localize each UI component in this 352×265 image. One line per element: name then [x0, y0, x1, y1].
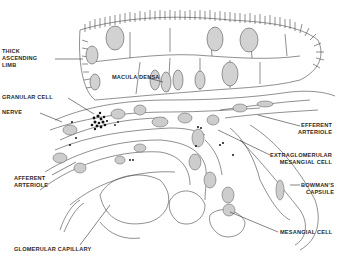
leader-mesangial-cell — [230, 212, 278, 232]
nucleus — [222, 62, 238, 86]
capillary-loop — [169, 191, 205, 224]
leader-efferent-arteriole — [258, 115, 300, 126]
label-thick-ascending-limb: THICK ASCENDING LIMB — [2, 48, 37, 69]
capillary-loop — [100, 175, 169, 224]
leader-granular-cell — [68, 98, 94, 114]
nucleus — [207, 27, 223, 51]
nucleus — [240, 28, 258, 52]
leader-afferent-arteriole — [52, 162, 76, 175]
label-glomerular-capillary: GLOMERULAR CAPILLARY — [14, 246, 91, 253]
label-granular-cell: GRANULAR CELL — [2, 94, 53, 101]
leader-glomerular-capillary — [80, 205, 110, 245]
nucleus — [173, 70, 183, 90]
leader-nerve — [40, 113, 62, 122]
label-extraglomerular-mesangial-cell: EXTRAGLOMERULAR MESANGIAL CELL — [270, 152, 332, 166]
label-afferent-arteriole: AFFERENT ARTERIOLE — [14, 175, 48, 189]
nucleus — [195, 71, 205, 89]
label-macula-densa: MACULA DENSA — [112, 74, 160, 81]
nucleus — [106, 26, 124, 50]
juxtaglomerular-diagram: THICK ASCENDING LIMB MACULA DENSA GRANUL… — [0, 0, 352, 265]
nucleus — [90, 74, 100, 90]
label-mesangial-cell: MESANGIAL CELL — [280, 229, 332, 236]
label-efferent-arteriole: EFFERENT ARTERIOLE — [298, 122, 332, 136]
label-bowmans-capsule: BOWMAN'S CAPSULE — [301, 182, 334, 196]
label-nerve: NERVE — [2, 109, 22, 116]
nucleus — [86, 46, 98, 64]
